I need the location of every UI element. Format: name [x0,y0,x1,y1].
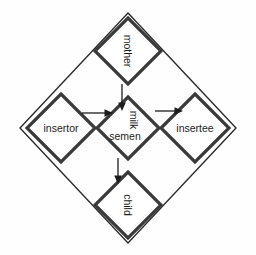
diagram-canvas: mother insertor milk semen insertee chil… [0,0,256,255]
node-diamond-mother[interactable] [95,18,161,84]
node-diamond-center[interactable] [97,97,159,159]
node-diamond-insertee[interactable] [161,94,229,162]
diagram-svg [0,0,256,255]
node-diamond-child[interactable] [95,172,161,238]
node-diamond-insertor[interactable] [27,94,95,162]
